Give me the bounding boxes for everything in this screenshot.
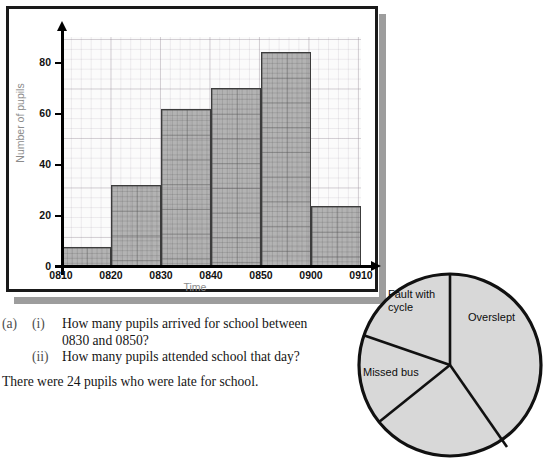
x-axis-tick-label: 0830	[139, 269, 183, 281]
pie-slice-label-missed-bus: Missed bus	[363, 366, 419, 379]
y-axis-tick	[55, 215, 62, 217]
y-axis-tick-label: 80	[9, 56, 51, 68]
histogram-bar	[261, 52, 311, 267]
chart-panel-shadow-bottom	[14, 297, 386, 304]
question-text-i: How many pupils arrived for school betwe…	[62, 316, 374, 349]
histogram-panel: 020406080 0810082008300840085009000910 T…	[6, 6, 378, 292]
question-text-i-line2: 0830 and 0850?	[62, 333, 374, 350]
question-text-i-line1: How many pupils arrived for school betwe…	[62, 316, 374, 333]
histogram-bar	[111, 185, 161, 267]
y-axis-line	[61, 29, 64, 275]
x-axis-title: Time	[9, 281, 381, 293]
question-roman-i: (i)	[32, 316, 62, 333]
pie-slice-label-fault-line1: Fault with	[388, 288, 454, 301]
histogram-bar	[61, 247, 111, 267]
trailing-sentence: There were 24 pupils who were late for s…	[2, 374, 374, 390]
y-axis-arrow-icon	[57, 21, 67, 31]
histogram-bar	[211, 88, 261, 267]
question-roman-ii: (ii)	[32, 349, 62, 366]
y-axis-tick	[55, 113, 62, 115]
y-axis-title: Number of pupils	[14, 68, 26, 178]
x-axis-tick-label: 0820	[89, 269, 133, 281]
pie-slice-label-fault-line2: cycle	[388, 301, 454, 314]
histogram-bar	[311, 206, 361, 267]
question-text-ii: How many pupils attended school that day…	[62, 349, 374, 366]
x-axis-tick-label: 0900	[289, 269, 333, 281]
pie-slice-label-fault-with-cycle: Fault with cycle	[388, 288, 454, 314]
x-axis-tick-label: 0840	[189, 269, 233, 281]
x-axis-tick-label: 0810	[39, 269, 83, 281]
y-axis-tick-label: 20	[9, 209, 51, 221]
question-row-ii: (ii) How many pupils attended school tha…	[2, 349, 374, 366]
question-part-label: (a)	[2, 316, 32, 333]
pie-slice-label-overslept: Overslept	[468, 311, 515, 324]
y-axis-tick	[55, 62, 62, 64]
question-row-i: (a) (i) How many pupils arrived for scho…	[2, 316, 374, 349]
plot-area	[61, 37, 361, 267]
x-axis-tick-label: 0850	[239, 269, 283, 281]
y-axis-tick	[55, 266, 62, 268]
question-block: (a) (i) How many pupils arrived for scho…	[2, 316, 374, 366]
x-axis-line	[55, 265, 373, 268]
bars-container	[61, 37, 361, 267]
y-axis-tick	[55, 164, 62, 166]
histogram-bar	[161, 109, 211, 267]
